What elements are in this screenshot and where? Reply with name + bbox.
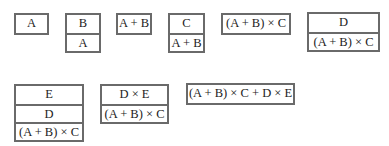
stack-7: E D (A + B) × C: [14, 84, 84, 142]
stack-2: B A: [65, 13, 101, 53]
stack-cell: C: [170, 15, 203, 33]
stack-cell: (A + B) × C: [102, 104, 167, 122]
stack-3: A + B: [116, 13, 152, 35]
stack-cell: A: [16, 15, 47, 33]
stack-cell: D × E: [102, 86, 167, 104]
stack-4: C A + B: [168, 13, 205, 53]
stack-cell: (A + B) × C + D × E: [188, 85, 293, 103]
stack-cell: A + B: [170, 33, 203, 51]
stack-cell: A: [67, 33, 99, 51]
stack-cell: D: [309, 14, 378, 32]
stack-cell: (A + B) × C: [16, 122, 82, 140]
stack-1: A: [14, 13, 49, 35]
stack-cell: D: [16, 104, 82, 122]
stack-6: D (A + B) × C: [307, 12, 380, 52]
stack-cell: A + B: [118, 15, 150, 33]
stack-cell: E: [16, 86, 82, 104]
stack-8: D × E (A + B) × C: [100, 84, 169, 124]
stack-cell: B: [67, 15, 99, 33]
stack-5: (A + B) × C: [221, 13, 291, 35]
stack-cell: (A + B) × C: [309, 32, 378, 50]
stack-cell: (A + B) × C: [223, 15, 289, 33]
stack-9: (A + B) × C + D × E: [186, 83, 295, 105]
